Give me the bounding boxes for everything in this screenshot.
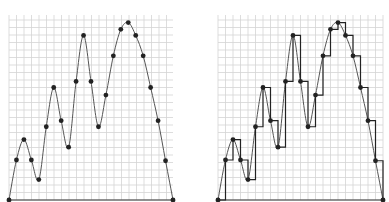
data-point bbox=[74, 79, 79, 84]
data-point bbox=[238, 158, 243, 163]
data-point bbox=[51, 85, 56, 90]
data-point bbox=[163, 158, 168, 163]
data-point bbox=[246, 177, 251, 182]
data-point bbox=[306, 124, 311, 129]
data-point bbox=[36, 177, 41, 182]
data-point bbox=[381, 198, 386, 202]
data-point bbox=[351, 53, 356, 58]
data-point bbox=[321, 53, 326, 58]
data-point bbox=[231, 137, 236, 142]
data-point bbox=[283, 79, 288, 84]
data-point bbox=[216, 198, 221, 202]
data-point bbox=[29, 158, 34, 163]
data-point bbox=[148, 85, 153, 90]
data-point bbox=[14, 158, 19, 163]
data-point bbox=[66, 145, 71, 150]
sampled-curve-chart bbox=[7, 15, 176, 202]
data-point bbox=[89, 79, 94, 84]
data-point bbox=[44, 124, 49, 129]
smooth-curve bbox=[9, 22, 173, 200]
chart-figure bbox=[0, 0, 389, 202]
data-point bbox=[126, 20, 131, 25]
data-point bbox=[22, 137, 27, 142]
data-point bbox=[358, 85, 363, 90]
data-point bbox=[81, 33, 86, 38]
data-point bbox=[156, 118, 161, 123]
data-point bbox=[343, 33, 348, 38]
data-point bbox=[118, 27, 123, 32]
step-overlay-chart bbox=[216, 15, 386, 202]
data-point bbox=[276, 145, 281, 150]
data-point bbox=[313, 93, 318, 98]
data-point bbox=[261, 85, 266, 90]
data-point bbox=[111, 53, 116, 58]
grid bbox=[9, 15, 173, 200]
data-point bbox=[133, 33, 138, 38]
data-points bbox=[7, 20, 176, 202]
data-point bbox=[328, 27, 333, 32]
data-point bbox=[366, 118, 371, 123]
data-point bbox=[336, 20, 341, 25]
data-point bbox=[253, 124, 258, 129]
data-point bbox=[223, 158, 228, 163]
data-point bbox=[268, 118, 273, 123]
data-point bbox=[291, 33, 296, 38]
data-point bbox=[141, 53, 146, 58]
data-point bbox=[298, 79, 303, 84]
data-point bbox=[373, 158, 378, 163]
data-point bbox=[59, 118, 64, 123]
data-point bbox=[96, 124, 101, 129]
data-point bbox=[104, 93, 109, 98]
data-point bbox=[171, 198, 176, 202]
data-point bbox=[7, 198, 12, 202]
